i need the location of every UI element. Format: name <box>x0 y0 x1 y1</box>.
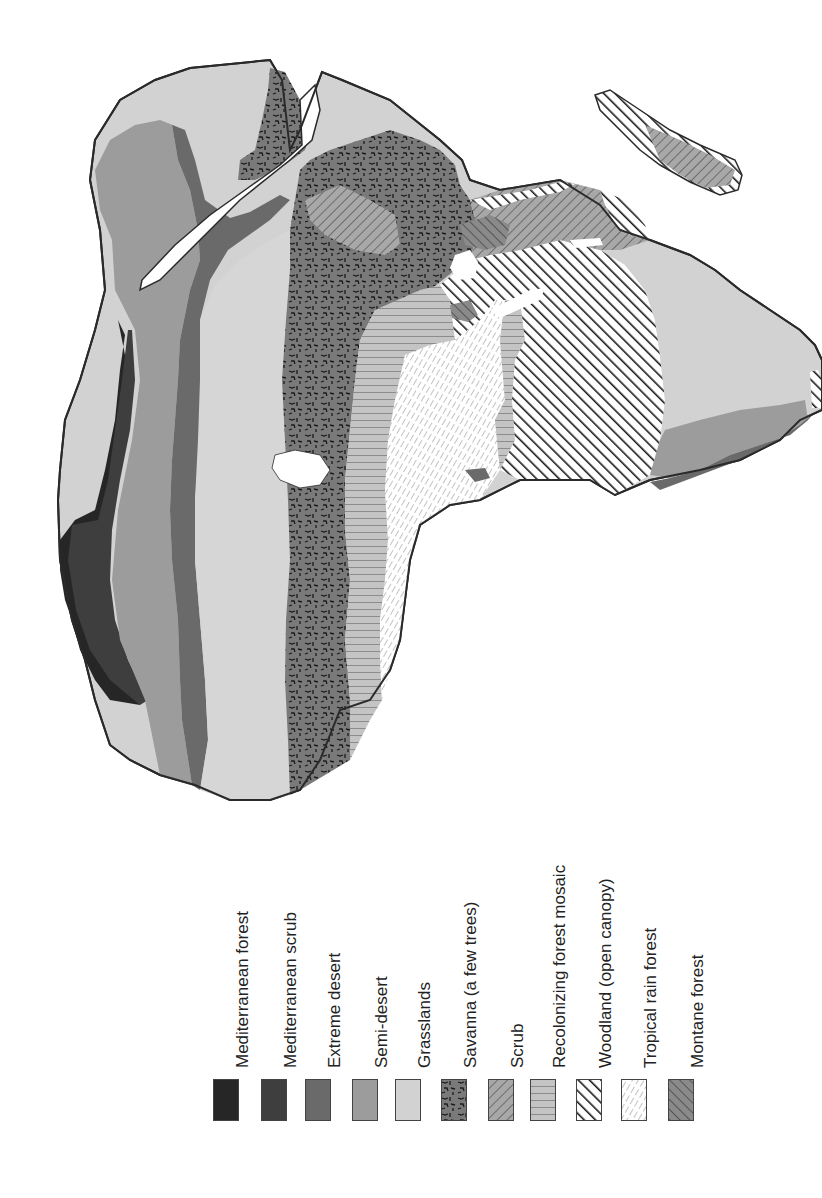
legend: Mediterranean forest Mediterranean scrub… <box>0 830 822 1198</box>
legend-swatch-mid-gray <box>352 1079 378 1121</box>
legend-swatch-savanna <box>441 1079 467 1121</box>
legend-swatch-solid-black <box>213 1079 239 1121</box>
legend-label: Mediterranean forest <box>233 828 253 1068</box>
legend-item-tropical-rain-forest: Tropical rain forest <box>621 830 661 1130</box>
legend-swatch-tropical <box>621 1079 647 1121</box>
legend-label: Montane forest <box>688 828 708 1068</box>
legend-label: Woodland (open canopy) <box>596 828 616 1068</box>
legend-label: Mediterranean scrub <box>281 828 301 1068</box>
legend-item-extreme-desert: Extreme desert <box>305 830 345 1130</box>
legend-item-savanna: Savanna (a few trees) <box>441 830 481 1130</box>
legend-swatch-dark-gray <box>261 1079 287 1121</box>
legend-swatch-mid-dark-gray <box>305 1079 331 1121</box>
legend-swatch-montane <box>668 1079 694 1121</box>
legend-label: Tropical rain forest <box>641 828 661 1068</box>
legend-label: Semi-desert <box>372 828 392 1068</box>
legend-swatch-woodland <box>576 1079 602 1121</box>
region-woodland-tip <box>810 370 822 408</box>
legend-item-woodland: Woodland (open canopy) <box>576 830 616 1130</box>
legend-item-montane-forest: Montane forest <box>668 830 708 1130</box>
legend-item-recolonizing-forest-mosaic: Recolonizing forest mosaic <box>530 830 570 1130</box>
legend-item-mediterranean-forest: Mediterranean forest <box>213 830 253 1130</box>
legend-swatch-recolonizing <box>530 1079 556 1121</box>
vegetation-map <box>0 0 822 830</box>
legend-item-mediterranean-scrub: Mediterranean scrub <box>261 830 301 1130</box>
legend-item-grasslands: Grasslands <box>395 830 435 1130</box>
legend-label: Extreme desert <box>325 828 345 1068</box>
legend-label: Recolonizing forest mosaic <box>550 828 570 1068</box>
legend-label: Grasslands <box>415 828 435 1068</box>
region-grasslands <box>195 230 290 800</box>
legend-swatch-light-gray <box>395 1079 421 1121</box>
legend-item-semi-desert: Semi-desert <box>352 830 392 1130</box>
legend-label: Scrub <box>508 828 528 1068</box>
legend-label: Savanna (a few trees) <box>461 828 481 1068</box>
legend-item-scrub: Scrub <box>488 830 528 1130</box>
legend-swatch-scrub <box>488 1079 514 1121</box>
